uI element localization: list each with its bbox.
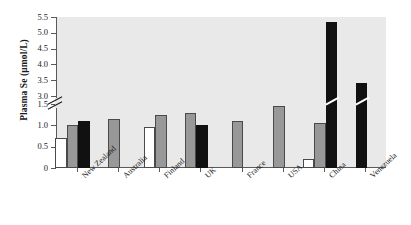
- x-axis-label-australia: Australia: [122, 174, 127, 180]
- y-tick-label: 5.0: [37, 28, 48, 37]
- bar-new-zealand-gray: [67, 125, 79, 168]
- x-axis-label-france: France: [246, 174, 251, 180]
- y-tick-label: 1.0: [37, 121, 48, 130]
- y-tick-mark: [51, 125, 56, 126]
- x-tick-mark: [159, 168, 160, 172]
- bar-uk-gray: [185, 113, 197, 168]
- y-tick-mark: [51, 104, 56, 105]
- x-tick-mark: [283, 168, 284, 172]
- y-tick-label: 0: [44, 164, 48, 173]
- bar-new-zealand-black: [78, 121, 90, 168]
- y-tick-mark: [51, 96, 56, 97]
- x-axis-label-venezuela: Venezuela: [369, 174, 374, 180]
- bar-uk-black: [196, 125, 208, 168]
- y-tick-label: 0.5: [37, 142, 48, 151]
- bar-usa-gray: [273, 106, 285, 168]
- x-tick-mark: [77, 168, 78, 172]
- y-tick-label: 4.0: [37, 60, 48, 69]
- y-tick-label: 5.5: [37, 13, 48, 22]
- y-tick-label: 3.5: [37, 76, 48, 85]
- x-axis-label-finland: Finland: [163, 174, 168, 180]
- y-tick-mark: [51, 168, 56, 169]
- x-axis-label-china: China: [328, 174, 333, 180]
- y-axis-title: Plasma Se (µmol/L): [14, 5, 34, 155]
- bar-venezuela-black: [356, 83, 368, 168]
- y-tick-mark: [51, 80, 56, 81]
- y-tick-label: 1.5: [37, 100, 48, 109]
- y-tick-mark: [51, 64, 56, 65]
- bar-france-gray: [232, 121, 244, 168]
- bar-china-white: [303, 159, 315, 168]
- y-tick-label: 3.0: [37, 92, 48, 101]
- x-axis-label-new-zealand: New Zealand: [81, 174, 86, 180]
- y-tick-mark: [51, 33, 56, 34]
- y-tick-mark: [51, 49, 56, 50]
- bar-new-zealand-white: [55, 138, 67, 168]
- bar-australia-gray: [108, 119, 120, 168]
- bar-china-black: [326, 22, 338, 168]
- x-axis-label-usa: USA: [287, 174, 292, 180]
- x-axis-label-uk: UK: [204, 174, 209, 180]
- bar-china-gray: [314, 123, 326, 168]
- x-tick-mark: [324, 168, 325, 172]
- x-tick-mark: [200, 168, 201, 172]
- x-tick-mark: [118, 168, 119, 172]
- bar-finland-gray: [155, 115, 167, 168]
- bar-chart: Plasma Se (µmol/L) 00.51.01.53.03.54.04.…: [0, 0, 411, 225]
- y-tick-label: 4.5: [37, 44, 48, 53]
- y-tick-mark: [51, 17, 56, 18]
- x-tick-mark: [365, 168, 366, 172]
- x-tick-mark: [242, 168, 243, 172]
